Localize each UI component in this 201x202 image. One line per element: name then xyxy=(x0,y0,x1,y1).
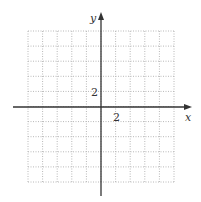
y-axis-label: y xyxy=(89,12,97,25)
x-axis-arrow-icon xyxy=(184,104,192,110)
x-axis-label: x xyxy=(185,111,192,124)
coordinate-plane: x y 2 2 xyxy=(0,0,201,202)
y-tick-label: 2 xyxy=(91,86,98,99)
y-axis-arrow-icon xyxy=(98,12,104,20)
x-tick-label: 2 xyxy=(113,111,120,124)
